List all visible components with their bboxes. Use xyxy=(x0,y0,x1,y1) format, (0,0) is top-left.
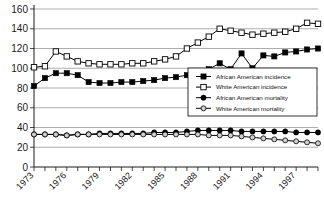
x-tick-label: 1997 xyxy=(276,170,297,191)
data-point xyxy=(283,129,288,134)
data-point xyxy=(272,137,277,142)
data-point xyxy=(32,132,37,137)
data-point xyxy=(250,129,255,134)
data-point xyxy=(239,129,244,134)
data-point xyxy=(294,130,299,135)
data-point xyxy=(173,54,178,59)
data-point xyxy=(152,132,157,137)
chart-legend: African American incidenceWhite American… xyxy=(188,68,317,116)
data-point xyxy=(119,132,124,137)
data-point xyxy=(316,141,321,146)
x-tick-label: 1991 xyxy=(211,170,232,191)
data-point xyxy=(217,133,222,138)
data-point xyxy=(141,132,146,137)
data-point xyxy=(31,83,36,88)
data-point xyxy=(305,140,310,145)
data-point xyxy=(86,61,91,66)
data-point xyxy=(272,30,277,35)
data-point xyxy=(162,76,167,81)
data-point xyxy=(184,46,189,51)
legend-label: White American incidence xyxy=(216,83,288,90)
data-point xyxy=(163,132,168,137)
data-point xyxy=(42,132,47,137)
data-point xyxy=(141,61,146,66)
data-point xyxy=(97,80,102,85)
x-tick-label: 1994 xyxy=(244,170,265,191)
x-tick-label: 1973 xyxy=(14,170,35,191)
data-point xyxy=(272,54,277,59)
data-point xyxy=(141,78,146,83)
legend-label: White American mortality xyxy=(216,105,285,112)
data-point xyxy=(201,95,206,100)
data-point xyxy=(315,46,320,51)
data-point xyxy=(294,49,299,54)
data-point xyxy=(261,31,266,36)
data-point xyxy=(283,29,288,34)
data-point xyxy=(173,75,178,80)
data-point xyxy=(283,50,288,55)
line-chart: 020406080100120140160 197319761979198219… xyxy=(0,0,324,216)
data-point xyxy=(293,26,298,31)
chart-container: 020406080100120140160 197319761979198219… xyxy=(0,0,324,216)
data-point xyxy=(174,132,179,137)
y-tick-label: 160 xyxy=(11,4,28,15)
data-point xyxy=(130,61,135,66)
data-point xyxy=(119,79,124,84)
data-point xyxy=(206,128,211,133)
data-point xyxy=(151,59,156,64)
data-point xyxy=(239,30,244,35)
x-axis-ticks xyxy=(34,167,318,171)
legend-label: African American incidence xyxy=(216,73,291,80)
data-point xyxy=(75,73,80,78)
y-tick-label: 20 xyxy=(17,142,29,153)
y-tick-label: 120 xyxy=(11,43,28,54)
data-point xyxy=(304,20,309,25)
data-point xyxy=(304,47,309,52)
series xyxy=(31,20,320,70)
y-tick-label: 100 xyxy=(11,63,28,74)
data-point xyxy=(108,80,113,85)
data-point xyxy=(206,133,211,138)
data-point xyxy=(130,79,135,84)
data-point xyxy=(228,128,233,133)
x-tick-label: 1976 xyxy=(47,170,68,191)
data-point xyxy=(228,28,233,33)
data-point xyxy=(97,62,102,67)
data-point xyxy=(206,34,211,39)
data-point xyxy=(53,132,58,137)
data-point xyxy=(108,132,113,137)
x-axis-labels: 197319761979198219851988199119941997 xyxy=(14,170,297,191)
series xyxy=(32,132,321,146)
y-tick-label: 80 xyxy=(17,83,29,94)
data-point xyxy=(250,32,255,37)
data-point xyxy=(201,84,206,89)
data-point xyxy=(239,134,244,139)
x-tick-label: 1979 xyxy=(80,170,101,191)
data-point xyxy=(64,133,69,138)
y-tick-label: 140 xyxy=(11,23,28,34)
x-tick-label: 1985 xyxy=(145,170,166,191)
data-point xyxy=(217,128,222,133)
data-point xyxy=(304,130,309,135)
data-point xyxy=(239,51,244,56)
data-point xyxy=(261,53,266,58)
data-point xyxy=(108,62,113,67)
data-point xyxy=(75,59,80,64)
data-point xyxy=(64,71,69,76)
data-point xyxy=(217,61,222,66)
data-point xyxy=(228,133,233,138)
data-point xyxy=(97,132,102,137)
data-point xyxy=(195,132,200,137)
data-point xyxy=(315,130,320,135)
data-point xyxy=(261,136,266,141)
data-point xyxy=(64,54,69,59)
data-point xyxy=(42,64,47,69)
x-tick-label: 1988 xyxy=(178,170,199,191)
data-point xyxy=(283,138,288,143)
data-point xyxy=(53,49,58,54)
data-point xyxy=(31,65,36,70)
data-point xyxy=(272,129,277,134)
legend-label: African American mortality xyxy=(216,94,289,101)
data-point xyxy=(201,106,206,111)
data-point xyxy=(184,132,189,137)
